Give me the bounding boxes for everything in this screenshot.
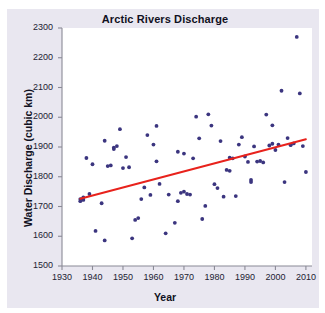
data-point [121, 166, 125, 170]
data-point [270, 123, 274, 127]
data-point [298, 92, 302, 96]
data-point [136, 216, 140, 220]
data-point [270, 142, 274, 146]
data-point [200, 217, 204, 221]
data-point [176, 199, 180, 203]
data-point [167, 193, 171, 197]
data-point [237, 143, 241, 147]
data-point [103, 239, 107, 243]
data-point [280, 89, 284, 93]
data-point [173, 221, 177, 225]
data-point [112, 147, 116, 151]
data-point [118, 127, 122, 131]
data-point [234, 194, 238, 198]
data-point [139, 197, 143, 201]
data-point [182, 190, 186, 194]
data-point [219, 139, 223, 143]
data-point [283, 180, 287, 184]
data-point [155, 124, 159, 128]
data-point [261, 161, 265, 165]
data-point [164, 231, 168, 235]
data-point [158, 182, 162, 186]
data-point [145, 133, 149, 137]
data-point [301, 144, 305, 148]
data-point [84, 156, 88, 160]
data-point [252, 145, 256, 149]
data-point [191, 156, 195, 160]
data-point [94, 229, 98, 233]
data-point [249, 180, 253, 184]
data-point [216, 186, 220, 190]
data-point [109, 164, 113, 168]
data-point [115, 144, 119, 148]
data-point [295, 35, 299, 39]
chart-figure: Arctic Rivers Discharge Water Discharge … [0, 0, 325, 313]
data-point [149, 193, 153, 197]
data-point [206, 112, 210, 116]
data-point [100, 201, 104, 205]
data-point [155, 159, 159, 163]
data-point [91, 162, 95, 166]
data-point [152, 143, 156, 147]
data-point [182, 152, 186, 156]
data-point [103, 139, 107, 143]
data-point [127, 165, 131, 169]
data-point [222, 195, 226, 199]
data-point [213, 182, 217, 186]
data-point [142, 186, 146, 190]
data-point [176, 150, 180, 154]
data-point [228, 169, 232, 173]
data-point [246, 160, 250, 164]
data-point [124, 155, 128, 159]
data-point [264, 113, 268, 117]
data-point [240, 135, 244, 139]
data-point [209, 124, 213, 128]
data-point [194, 115, 198, 119]
data-point [203, 204, 207, 208]
data-point [130, 236, 134, 240]
data-point [197, 136, 201, 140]
data-point [304, 170, 308, 174]
data-point [286, 136, 290, 140]
data-point [188, 193, 192, 197]
scatter-plot [0, 0, 325, 313]
data-point [274, 148, 278, 152]
